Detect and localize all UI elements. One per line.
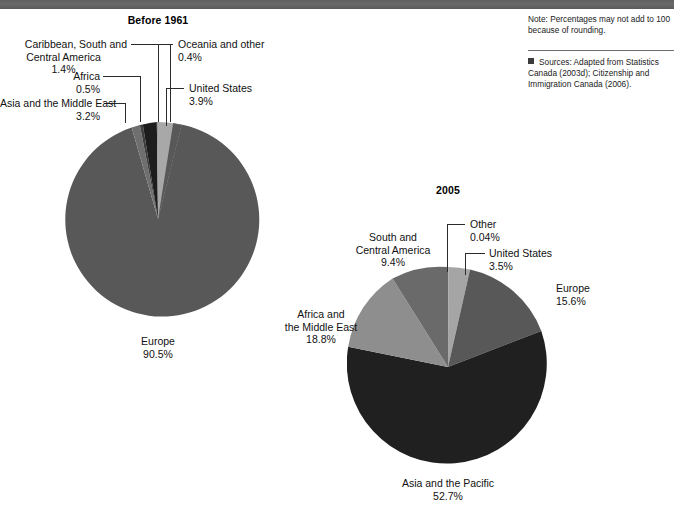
label-south-central-america: South and Central America 9.4% <box>333 231 453 269</box>
sources-text: Sources: Adapted from Statistics Canada … <box>528 57 659 89</box>
label-united-states: United States 3.9% <box>189 82 252 107</box>
sources-bullet-icon <box>528 58 534 64</box>
leader-us-2005-h <box>465 253 485 254</box>
pie-chart-2005 <box>347 266 549 468</box>
sources-block: Sources: Adapted from Statistics Canada … <box>528 57 674 91</box>
leader-oceania-h <box>158 44 173 45</box>
leader-africa-v <box>140 76 141 122</box>
note-text: Note: Percentages may not add to 100 bec… <box>528 14 674 36</box>
label-africa-middle-east-2005: Africa and the Middle East 18.8% <box>271 308 371 346</box>
leader-africa-h <box>103 76 141 77</box>
top-banner-bar <box>0 0 674 9</box>
leader-us-2005-v <box>465 253 466 275</box>
label-asia-pacific: Asia and the Pacific 52.7% <box>388 477 508 502</box>
label-africa: Africa 0.5% <box>20 70 100 95</box>
pie-chart-before-1961 <box>56 117 260 321</box>
label-united-states-2005: United States 3.5% <box>489 247 552 272</box>
leader-asia-me-v <box>125 103 126 123</box>
chart-title-before-1961: Before 1961 <box>98 14 218 26</box>
leader-united-states-h <box>166 88 184 89</box>
chart-title-2005: 2005 <box>398 184 498 196</box>
label-europe-1961: Europe 90.5% <box>108 335 208 360</box>
note-divider <box>528 50 674 51</box>
label-oceania: Oceania and other 0.4% <box>178 38 264 63</box>
leader-other-h <box>447 224 465 225</box>
leader-caribbean-v <box>170 44 171 122</box>
leader-oceania-v <box>158 44 159 122</box>
label-other-2005: Other 0.04% <box>470 218 500 243</box>
label-asia-middle-east: Asia and the Middle East 3.2% <box>0 97 100 122</box>
label-europe-2005: Europe 15.6% <box>556 282 590 307</box>
leader-united-states-v <box>166 88 167 126</box>
